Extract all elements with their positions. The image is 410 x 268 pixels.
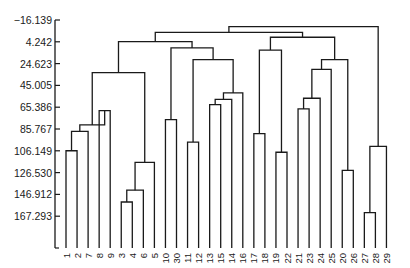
y-tick-label: 45.005 [20,79,52,91]
dendrogram-link [193,60,233,142]
dendrogram-link [223,93,242,248]
dendrogram-link [254,134,265,248]
y-tick-label: 85.767 [20,123,52,135]
dendrogram-link [92,73,144,163]
leaf-label: 7 [83,253,94,258]
leaf-label: 5 [149,253,160,258]
leaf-label: 15 [215,253,226,264]
dendrogram-link [171,48,213,120]
dendrogram-link [135,162,154,248]
leaf-label: 16 [237,253,248,264]
y-tick-label: −16.139 [14,14,52,26]
leaf-label: 28 [370,253,381,264]
leaf-label: 2 [72,253,83,258]
leaf-label: 18 [259,253,270,264]
dendrogram-link [215,99,232,248]
dendrogram-svg: −16.1394.24224.62345.00565.38685.767106.… [0,0,410,268]
y-axis: −16.1394.24224.62345.00565.38685.767106.… [14,14,60,248]
dendrogram-link [312,69,331,248]
dendrogram-link [370,146,387,248]
dendrogram-chart: −16.1394.24224.62345.00565.38685.767106.… [0,0,410,268]
dendrogram-link [259,50,281,152]
leaf-labels: 1278934651030111213151416171819222123242… [61,253,392,264]
dendrogram-tree [66,27,386,248]
dendrogram-link [127,190,144,248]
leaf-label: 17 [248,253,259,264]
leaf-label: 21 [293,253,304,264]
dendrogram-link [210,105,221,248]
dendrogram-link [229,27,378,147]
dendrogram-link [342,170,353,248]
dendrogram-link [99,111,110,248]
y-tick-label: 167.293 [14,210,52,222]
leaf-label: 4 [127,253,138,258]
y-tick-label: 24.623 [20,58,52,70]
dendrogram-link [364,213,375,248]
dendrogram-link [188,142,199,248]
leaf-label: 29 [381,253,392,264]
y-tick-label: 146.912 [14,188,52,200]
dendrogram-link [270,37,334,59]
dendrogram-link [322,60,348,171]
leaf-label: 26 [348,253,359,264]
y-tick-label: 106.149 [14,145,52,157]
leaf-label: 10 [160,253,171,264]
leaf-label: 24 [315,253,326,264]
leaf-label: 11 [182,253,193,263]
leaf-label: 27 [359,253,370,264]
leaf-label: 19 [270,253,281,264]
dendrogram-link [276,152,287,248]
y-tick-label: 4.242 [26,36,52,48]
leaf-label: 8 [94,253,105,258]
leaf-label: 23 [304,253,315,264]
leaf-label: 12 [193,253,204,264]
dendrogram-link [304,98,321,248]
y-tick-label: 65.386 [20,101,52,113]
dendrogram-link [66,151,77,248]
leaf-label: 14 [226,253,237,264]
dendrogram-link [121,202,132,248]
dendrogram-link [165,120,176,248]
dendrogram-link [72,131,89,248]
leaf-label: 9 [105,253,116,258]
dendrogram-link [118,42,192,73]
leaf-label: 22 [282,253,293,264]
leaf-label: 3 [116,253,127,258]
leaf-label: 30 [171,253,182,264]
dendrogram-link [298,109,309,248]
leaf-label: 1 [61,253,72,258]
leaf-label: 6 [138,253,149,258]
y-tick-label: 126.530 [14,167,52,179]
leaf-label: 13 [204,253,215,264]
leaf-label: 25 [326,253,337,264]
leaf-label: 20 [337,253,348,264]
